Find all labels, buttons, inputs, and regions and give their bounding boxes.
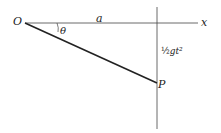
origin-label: O	[13, 16, 22, 27]
drop-expression: gt²	[170, 46, 183, 56]
diagram-canvas	[0, 0, 221, 133]
point-label: P	[158, 79, 165, 90]
drop-distance-label: ½gt²	[161, 47, 183, 56]
distance-label: a	[96, 13, 103, 24]
drop-fraction: ½	[161, 46, 170, 56]
angle-label: θ	[60, 26, 66, 36]
trajectory-line-op	[25, 23, 157, 83]
x-axis-label: x	[201, 17, 207, 28]
angle-arc	[57, 23, 58, 32]
